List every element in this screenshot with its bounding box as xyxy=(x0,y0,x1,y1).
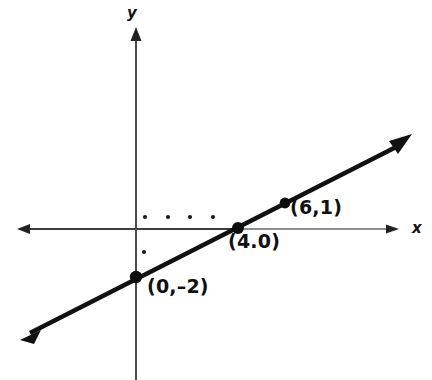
tick-dots xyxy=(142,215,215,254)
plotted-line xyxy=(20,134,412,344)
tick-dot xyxy=(188,215,192,219)
point-label-4-0: (4.0) xyxy=(228,232,280,251)
y-axis xyxy=(131,27,142,380)
y-axis-label: y xyxy=(127,6,137,21)
x-axis-right-arrowhead-icon xyxy=(386,225,399,234)
point-label-6-1: (6,1) xyxy=(290,198,342,217)
point-6-1 xyxy=(280,198,291,209)
graph-figure: y x (6,1) (4.0) (0,–2) xyxy=(0,0,432,380)
coordinate-plane xyxy=(0,0,432,380)
point-label-0-neg2: (0,–2) xyxy=(147,277,209,296)
tick-dot xyxy=(143,215,147,219)
tick-dot xyxy=(166,215,170,219)
line-segment xyxy=(30,144,402,333)
x-axis-label: x xyxy=(412,221,422,236)
tick-dot xyxy=(211,215,215,219)
tick-dot xyxy=(142,250,146,254)
x-axis xyxy=(17,224,399,234)
x-axis-left-arrowhead-icon xyxy=(17,224,30,234)
y-axis-up-arrowhead-icon xyxy=(131,27,142,41)
point-0-neg2 xyxy=(130,271,142,283)
